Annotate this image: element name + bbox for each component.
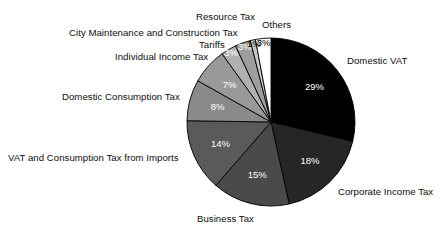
pie-label-business-tax: Business Tax bbox=[197, 213, 254, 224]
pie-label-vat-imports: VAT and Consumption Tax from Imports bbox=[8, 152, 179, 163]
pie-label-others: Others bbox=[262, 19, 291, 30]
pie-label-city-maintenance: City Maintenance and Construction Tax bbox=[69, 27, 238, 38]
pie-value-label-individual-income-tax: 7% bbox=[223, 79, 237, 90]
pie-value-label-others: 3% bbox=[257, 37, 271, 48]
pie-value-label-vat-and-consumption-tax-from-imports: 14% bbox=[211, 138, 231, 149]
pie-chart-figure: 29%18%15%14%8%7%3%3%1%3% Domestic VATCor… bbox=[0, 0, 448, 233]
pie-label-resource-tax: Resource Tax bbox=[196, 11, 255, 22]
pie-value-label-corporate-income-tax: 18% bbox=[300, 155, 320, 166]
pie-value-label-domestic-consumption-tax: 8% bbox=[211, 101, 225, 112]
pie-label-corporate-income: Corporate Income Tax bbox=[338, 186, 433, 197]
pie-value-label-domestic-vat: 29% bbox=[305, 81, 325, 92]
pie-label-domestic-vat: Domestic VAT bbox=[347, 55, 407, 66]
pie-label-tariffs: Tariffs bbox=[199, 39, 225, 50]
pie-value-label-tariffs: 3% bbox=[224, 47, 238, 58]
pie-slices-group bbox=[187, 38, 355, 206]
pie-label-domestic-consumption: Domestic Consumption Tax bbox=[62, 91, 180, 102]
pie-value-label-business-tax: 15% bbox=[248, 169, 268, 180]
pie-label-individual-income: Individual Income Tax bbox=[115, 51, 208, 62]
